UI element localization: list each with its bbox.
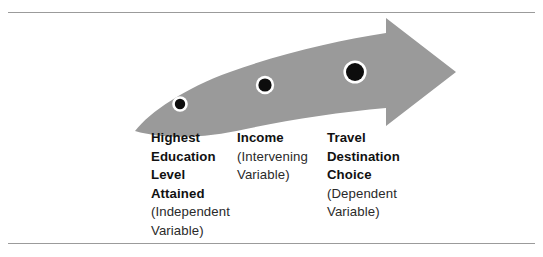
variable-labels: Highest Education Level Attained (Indepe… (0, 0, 543, 257)
label-line: Variable) (327, 203, 427, 222)
label-line: (Independent (151, 203, 241, 222)
label-line: Attained (151, 185, 241, 204)
variable-label-intervening: Income (Intervening Variable) (237, 129, 329, 185)
label-line: Choice (327, 166, 427, 185)
label-line: Income (237, 129, 329, 148)
label-line: (Dependent (327, 185, 427, 204)
variable-label-independent: Highest Education Level Attained (Indepe… (151, 129, 241, 241)
label-line: (Intervening (237, 148, 329, 167)
figure-canvas: Highest Education Level Attained (Indepe… (0, 0, 543, 257)
label-line: Highest (151, 129, 241, 148)
variable-label-dependent: Travel Destination Choice (Dependent Var… (327, 129, 427, 222)
label-line: Education (151, 148, 241, 167)
label-line: Travel (327, 129, 427, 148)
label-line: Level (151, 166, 241, 185)
bottom-divider-rule (8, 243, 535, 244)
label-line: Variable) (151, 222, 241, 241)
label-line: Destination (327, 148, 427, 167)
label-line: Variable) (237, 166, 329, 185)
